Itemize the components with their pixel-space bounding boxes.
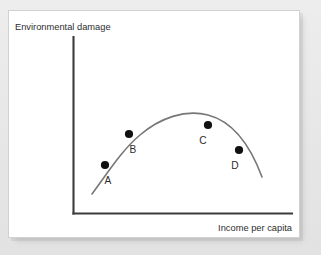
figure-card: A B C D Environmental damage Income per … bbox=[8, 10, 300, 238]
data-point-label-b: B bbox=[130, 144, 137, 155]
y-axis-label: Environmental damage bbox=[15, 22, 111, 32]
plot-area: A B C D Environmental damage Income per … bbox=[9, 11, 299, 237]
data-point-c[interactable] bbox=[204, 121, 212, 129]
kuznets-curve-path bbox=[92, 113, 262, 194]
kuznets-curve-chart: A B C D Environmental damage Income per … bbox=[9, 11, 301, 239]
page-background: A B C D Environmental damage Income per … bbox=[0, 0, 321, 255]
data-point-a[interactable] bbox=[101, 161, 109, 169]
data-point-label-a: A bbox=[105, 175, 112, 186]
data-point-d[interactable] bbox=[235, 146, 243, 154]
data-point-label-c: C bbox=[199, 135, 206, 146]
data-point-label-d: D bbox=[231, 160, 238, 171]
x-axis-label: Income per capita bbox=[218, 223, 293, 233]
data-point-b[interactable] bbox=[125, 130, 133, 138]
